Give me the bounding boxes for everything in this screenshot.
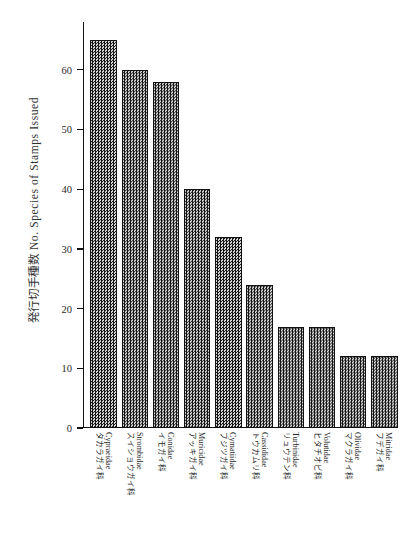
x-axis-label-japanese: ヒタチオビ科	[314, 432, 322, 480]
y-axis-tick-label: 60	[62, 64, 73, 75]
x-axis-label-japanese: スイショウガイ科	[126, 432, 134, 496]
y-axis-tick-label: 50	[62, 124, 73, 135]
x-axis-label-scientific: Cassididae	[259, 432, 268, 480]
x-axis-label-japanese: アッキガイ科	[189, 432, 197, 480]
x-axis-label-scientific: Conidae	[166, 432, 175, 472]
x-axis-label: Cymatiidaeフジツガイ科	[215, 432, 241, 528]
x-axis-label: Olividaeマクラガイ科	[340, 432, 366, 528]
x-axis-label-scientific: Turbinidae	[290, 432, 299, 480]
y-axis-title-wrap: 発行切手種数 No. Species of Stamps Issued	[22, 60, 44, 360]
footer-mark	[150, 516, 270, 524]
y-axis-tick-label: 0	[67, 422, 72, 433]
bar	[246, 285, 272, 428]
y-axis-tick-label: 20	[62, 303, 73, 314]
x-axis-label-scientific: Cymatiidae	[228, 432, 237, 480]
bar	[184, 189, 210, 428]
x-axis-label: Strombidaeスイショウガイ科	[122, 432, 148, 528]
plot-area: 0102030405060	[83, 22, 395, 428]
x-axis-label: Muricidaeアッキガイ科	[184, 432, 210, 528]
x-axis-label-japanese: フデガイ科	[376, 432, 384, 472]
x-axis-label-japanese: フジツガイ科	[220, 432, 228, 480]
bar	[309, 327, 335, 429]
x-axis-label: Conidaeイモガイ科	[153, 432, 179, 528]
bar	[215, 237, 241, 428]
bar	[153, 82, 179, 428]
bar	[278, 327, 304, 429]
x-axis-label-japanese: イモガイ科	[158, 432, 166, 472]
x-axis-label-scientific: Olividae	[353, 432, 362, 480]
y-axis-tick-label: 10	[62, 363, 73, 374]
x-axis-label: Mitridaeフデガイ科	[371, 432, 397, 528]
bar	[90, 40, 116, 428]
bar	[371, 356, 397, 428]
x-axis-label-scientific: Volutidae	[322, 432, 331, 480]
x-axis-label-japanese: リュウテン科	[282, 432, 290, 480]
x-axis-label-scientific: Muricidae	[197, 432, 206, 480]
x-axis-label: Cypraeidaeタカラガイ科	[90, 432, 116, 528]
x-axis-label-scientific: Strombidae	[134, 432, 143, 496]
x-axis-label-japanese: トウカムリ科	[251, 432, 259, 480]
x-axis-label-scientific: Mitridae	[384, 432, 393, 472]
x-axis-label: Turbinidaeリュウテン科	[278, 432, 304, 528]
x-axis-label: Cassididaeトウカムリ科	[246, 432, 272, 528]
bar	[340, 356, 366, 428]
bar-chart: 発行切手種数 No. Species of Stamps Issued 0102…	[0, 0, 407, 533]
y-axis-tick-label: 30	[62, 243, 73, 254]
x-axis-label-japanese: マクラガイ科	[345, 432, 353, 480]
x-axis-label-scientific: Cypraeidae	[103, 432, 112, 480]
x-axis-label-japanese: タカラガイ科	[95, 432, 103, 480]
x-axis-label: Volutidaeヒタチオビ科	[309, 432, 335, 528]
y-axis-tick-label: 40	[62, 184, 73, 195]
bar	[122, 70, 148, 428]
y-axis-title: 発行切手種数 No. Species of Stamps Issued	[25, 97, 41, 323]
bar-series	[83, 22, 395, 428]
